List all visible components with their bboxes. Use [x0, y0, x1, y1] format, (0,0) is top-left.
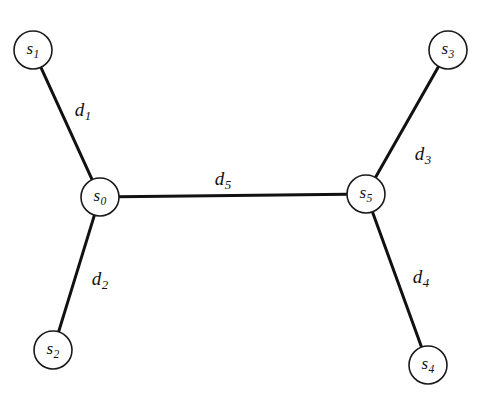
edge-d5 — [118, 194, 347, 197]
node-label-s5-base: s — [360, 183, 367, 202]
node-label-s3: s3 — [442, 40, 455, 60]
edge-label-d1-subscript: 1 — [84, 109, 91, 124]
edge-label-d5-base: d — [215, 168, 225, 189]
node-label-s5: s5 — [360, 184, 373, 204]
node-label-s3-subscript: 3 — [448, 48, 454, 61]
node-label-s3-base: s — [442, 39, 449, 58]
diagram-canvas: s0s1s2s3s4s5d1d2d3d4d5 — [0, 0, 478, 396]
edge-label-d2-base: d — [92, 268, 102, 289]
edge-label-d4: d4 — [413, 267, 429, 290]
node-label-s1-base: s — [27, 39, 34, 58]
edge-label-d4-base: d — [413, 266, 423, 287]
node-label-s4-base: s — [422, 354, 429, 373]
edge-label-d2: d2 — [92, 269, 108, 292]
nodes-layer — [14, 31, 467, 384]
node-label-s1-subscript: 1 — [33, 48, 39, 61]
edge-d2 — [58, 215, 94, 333]
node-label-s0-subscript: 0 — [100, 195, 106, 208]
edge-label-d4-subscript: 4 — [422, 276, 429, 291]
node-label-s2-base: s — [47, 339, 54, 358]
edge-label-d1: d1 — [75, 100, 91, 123]
node-label-s0-base: s — [94, 186, 101, 205]
node-label-s4-subscript: 4 — [428, 363, 434, 376]
node-label-s2-subscript: 2 — [53, 348, 59, 361]
node-label-s0: s0 — [94, 187, 107, 207]
edge-label-d5-subscript: 5 — [224, 178, 231, 193]
node-label-s4: s4 — [422, 355, 435, 375]
graph-svg — [0, 0, 478, 396]
edge-label-d1-base: d — [75, 99, 85, 120]
edge-label-d2-subscript: 2 — [101, 278, 108, 293]
edge-label-d3: d3 — [415, 144, 431, 167]
node-label-s2: s2 — [47, 340, 60, 360]
edge-label-d5: d5 — [215, 169, 231, 192]
edge-label-d3-base: d — [415, 143, 425, 164]
node-label-s1: s1 — [27, 40, 40, 60]
edge-label-d3-subscript: 3 — [424, 153, 431, 168]
node-label-s5-subscript: 5 — [366, 192, 372, 205]
